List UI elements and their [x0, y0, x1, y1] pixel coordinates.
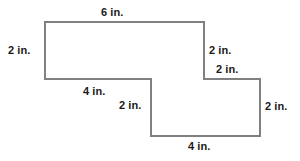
- composite-polygon-shape: [45, 22, 260, 136]
- dimension-label-middle-bottom-4in: 4 in.: [83, 85, 106, 97]
- dimension-label-right-upper-2in: 2 in.: [209, 44, 232, 56]
- dimension-label-right-step-2in: 2 in.: [216, 63, 239, 75]
- dimension-label-top-6in: 6 in.: [101, 6, 124, 18]
- composite-figure-diagram: 6 in. 2 in. 2 in. 2 in. 4 in. 2 in. 2 in…: [0, 0, 300, 161]
- dimension-label-left-2in: 2 in.: [8, 44, 31, 56]
- figure-outline-svg: [0, 0, 300, 161]
- dimension-label-right-lower-2in: 2 in.: [265, 100, 288, 112]
- dimension-label-bottom-4in: 4 in.: [188, 140, 211, 152]
- dimension-label-middle-vertical-2in: 2 in.: [119, 99, 142, 111]
